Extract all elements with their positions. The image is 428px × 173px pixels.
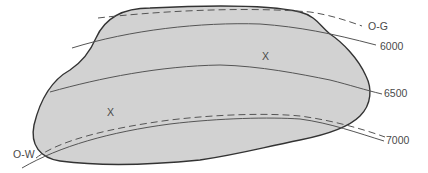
label-contour-6000: 6000 (380, 40, 404, 52)
diagram-canvas: O-G 6000 6500 7000 O-W X X (0, 0, 428, 173)
reservoir-diagram: O-G 6000 6500 7000 O-W X X (0, 0, 428, 173)
well-marker-1: X (262, 50, 269, 62)
label-contour-7000: 7000 (386, 134, 410, 146)
label-oil-water-contact: O-W (13, 148, 35, 160)
label-gas-oil-contact: O-G (368, 20, 388, 32)
label-contour-6500: 6500 (384, 87, 408, 99)
well-marker-2: X (107, 106, 114, 118)
reservoir-body (33, 6, 370, 164)
